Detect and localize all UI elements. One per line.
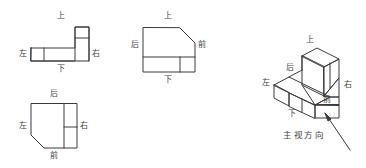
- iso-label-bottom: 下: [288, 110, 297, 118]
- front-view-label-left: 左: [19, 50, 28, 58]
- top-view-label-right: 右: [80, 122, 89, 130]
- top-view-label-left: 左: [19, 122, 28, 130]
- front-view-outline-2: [31, 27, 89, 61]
- side-view-label-left: 后: [131, 41, 140, 49]
- front-view-label-top: 上: [57, 12, 66, 20]
- side-view-label-top: 上: [164, 12, 173, 20]
- iso-riser-top-face: [302, 48, 339, 67]
- top-view-label-top: 后: [50, 90, 59, 98]
- technical-drawing-figure: 上 左 右 下 上 后 前 下 后 左 右 前 上 后 左 右 前 下 主视方向: [0, 0, 366, 168]
- iso-label-right: 右: [344, 81, 353, 89]
- iso-label-left: 左: [262, 79, 271, 87]
- main-view-direction-label: 主视方向: [283, 131, 325, 140]
- front-view-label-right: 右: [92, 50, 101, 58]
- side-view-outline: [143, 28, 195, 72]
- main-view-direction-arrow: [325, 113, 350, 150]
- iso-label-top: 上: [306, 36, 315, 44]
- iso-riser-right-chamfer: [324, 59, 339, 96]
- side-view-label-bottom: 下: [164, 76, 173, 84]
- top-view-label-bottom: 前: [50, 152, 59, 160]
- side-view-label-right: 前: [198, 41, 207, 49]
- front-view-label-bottom: 下: [57, 65, 66, 73]
- arrow-head: [325, 113, 331, 121]
- front-view-outline: [31, 27, 89, 61]
- top-view-outline: [31, 104, 77, 148]
- iso-label-front: 前: [323, 96, 332, 104]
- iso-label-back: 后: [286, 64, 295, 72]
- front-view-drawing: [0, 0, 366, 168]
